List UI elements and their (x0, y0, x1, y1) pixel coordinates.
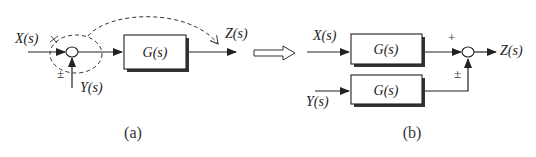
panel-a: X(s) Y(s) ± G(s) Z(s) (a) (14, 17, 248, 142)
hollow-right-arrow-icon (254, 46, 295, 60)
caption-b: (b) (403, 124, 422, 142)
bottom-to-sum-line-b (425, 59, 468, 91)
label-y-a: Y(s) (80, 80, 103, 96)
block-g-label-b-top: G(s) (374, 42, 399, 58)
cross-mark-icon (50, 36, 58, 43)
block-g-label-a: G(s) (143, 45, 168, 61)
sign-y-a: ± (57, 66, 64, 81)
block-g-label-b-bottom: G(s) (374, 83, 399, 99)
summing-junction-b (462, 47, 474, 57)
block-diagram-figure: X(s) Y(s) ± G(s) Z(s) (a) X(s) G(s) (0, 0, 536, 157)
label-z-a: Z(s) (225, 26, 248, 42)
summing-junction-a (66, 47, 78, 57)
label-x-a: X(s) (14, 31, 39, 47)
label-x-b: X(s) (312, 28, 337, 44)
caption-a: (a) (124, 124, 142, 142)
panel-b: X(s) G(s) Y(s) G(s) + ± Z(s) (b) (306, 28, 523, 142)
sign-bottom-b: ± (454, 66, 461, 81)
label-y-b: Y(s) (306, 94, 329, 110)
sign-top-b: + (448, 30, 455, 45)
label-z-b: Z(s) (500, 43, 523, 59)
